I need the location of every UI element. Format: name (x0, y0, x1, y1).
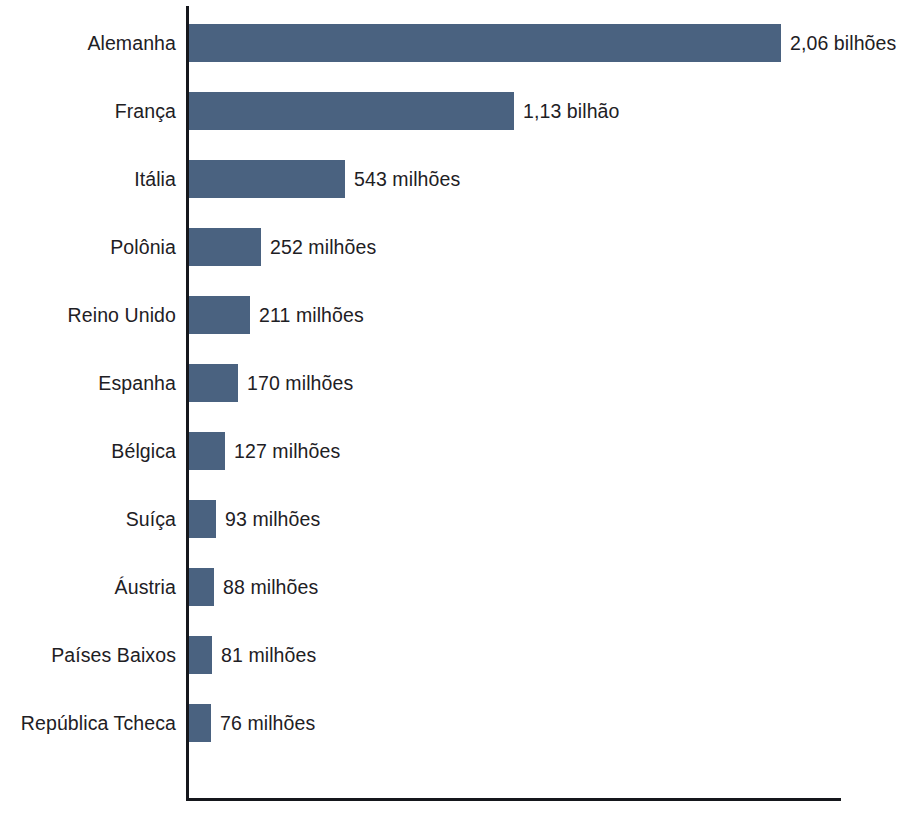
bar-row: Polônia252 milhões (0, 228, 908, 266)
category-label: França (0, 92, 176, 130)
bar (189, 92, 514, 130)
bar-row: Países Baixos81 milhões (0, 636, 908, 674)
bar-row: Reino Unido211 milhões (0, 296, 908, 334)
bar-value-label: 76 milhões (220, 704, 315, 742)
category-label: Áustria (0, 568, 176, 606)
bar (189, 364, 238, 402)
bar-rows-container: Alemanha2,06 bilhõesFrança1,13 bilhãoItá… (0, 0, 908, 790)
category-label: Alemanha (0, 24, 176, 62)
bar-value-label: 543 milhões (354, 160, 460, 198)
bar-value-label: 81 milhões (221, 636, 316, 674)
bar-value-label: 93 milhões (225, 500, 320, 538)
bar (189, 500, 216, 538)
bar-row: Alemanha2,06 bilhões (0, 24, 908, 62)
bar-value-label: 88 milhões (223, 568, 318, 606)
bar-value-label: 211 milhões (259, 296, 364, 334)
bar-row: Espanha170 milhões (0, 364, 908, 402)
bar (189, 636, 212, 674)
category-label: República Tcheca (0, 704, 176, 742)
category-label: Itália (0, 160, 176, 198)
bar-value-label: 252 milhões (270, 228, 376, 266)
category-label: Bélgica (0, 432, 176, 470)
bar (189, 296, 250, 334)
bar (189, 24, 781, 62)
bar-row: Suíça93 milhões (0, 500, 908, 538)
x-axis-line (186, 798, 841, 801)
bar-row: França1,13 bilhão (0, 92, 908, 130)
bar-value-label: 127 milhões (234, 432, 340, 470)
category-label: Suíça (0, 500, 176, 538)
bar-value-label: 1,13 bilhão (523, 92, 620, 130)
bar (189, 704, 211, 742)
bar (189, 432, 225, 470)
bar (189, 160, 345, 198)
bar-chart: Alemanha2,06 bilhõesFrança1,13 bilhãoItá… (0, 0, 908, 817)
bar-row: Bélgica127 milhões (0, 432, 908, 470)
bar-row: República Tcheca76 milhões (0, 704, 908, 742)
bar (189, 228, 261, 266)
bar-value-label: 2,06 bilhões (790, 24, 896, 62)
bar-row: Itália543 milhões (0, 160, 908, 198)
category-label: Espanha (0, 364, 176, 402)
bar-value-label: 170 milhões (247, 364, 353, 402)
category-label: Países Baixos (0, 636, 176, 674)
bar-row: Áustria88 milhões (0, 568, 908, 606)
category-label: Polônia (0, 228, 176, 266)
category-label: Reino Unido (0, 296, 176, 334)
bar (189, 568, 214, 606)
